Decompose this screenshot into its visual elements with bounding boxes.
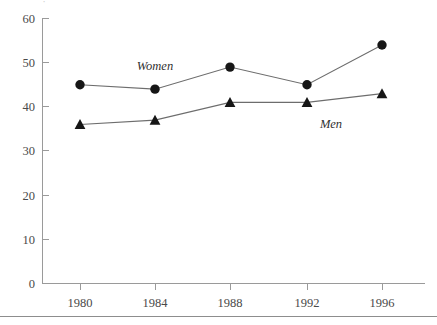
x-axis-ticks [81,284,383,290]
series-women [75,40,386,94]
y-label-10: 10 [23,233,36,247]
data-point-women-1980 [75,80,84,89]
y-label-30: 30 [23,144,36,158]
y-label-60: 60 [23,12,36,26]
data-point-women-1992 [302,80,311,89]
x-label-1992: 1992 [295,296,320,310]
data-point-women-1984 [150,84,159,93]
clipped-top-glyph: · [42,0,46,7]
data-series-layer [75,40,388,129]
line-chart-figure: · 60 50 40 30 20 10 0 [0,0,437,325]
y-label-50: 50 [23,56,36,70]
series-label-men: Men [319,117,342,131]
x-label-1988: 1988 [218,296,243,310]
y-label-20: 20 [23,189,36,203]
y-label-40: 40 [23,100,36,114]
y-label-0: 0 [29,277,35,291]
series-label-women: Women [137,59,173,73]
x-axis-labels: 1980 1984 1988 1992 1996 [68,296,395,310]
x-label-1980: 1980 [68,296,93,310]
data-point-women-1988 [225,62,234,71]
x-label-1996: 1996 [370,296,395,310]
data-point-men-1996 [377,88,388,98]
data-point-women-1996 [377,40,386,49]
y-axis-ticks [43,19,49,240]
y-axis-labels: 60 50 40 30 20 10 0 [23,12,36,291]
x-label-1984: 1984 [143,296,169,310]
chart-canvas: · 60 50 40 30 20 10 0 [0,0,437,325]
